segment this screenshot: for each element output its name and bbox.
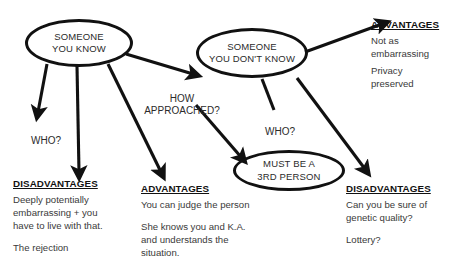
block-advantages-bottom-middle-heading: ADVANTAGES [141, 182, 269, 195]
edge-unknown-to-who [262, 79, 274, 110]
edge-label-how-approached: HOW APPROACHED? [143, 80, 221, 118]
block-advantages-top-right-para-2: Privacy preserved [371, 64, 459, 90]
node-someone-you-dont-know-label: SOMEONE YOU DON'T KNOW [209, 41, 295, 66]
block-advantages-top-right-para-1: Not as embarrassing [371, 34, 459, 60]
edge-label-who-left: WHO? [22, 122, 70, 147]
block-disadvantages-bottom-right-heading: DISADVANTAGES [346, 182, 458, 195]
block-advantages-bottom-middle-para-2: She knows you and K.A. and understands t… [141, 220, 269, 260]
block-advantages-top-right-heading: ADVANTAGES [371, 18, 459, 31]
block-disadvantages-bottom-left: DISADVANTAGES Deeply potentially embarra… [13, 177, 135, 255]
block-disadvantages-bottom-right-para-2: Lottery? [346, 233, 458, 246]
block-disadvantages-bottom-left-para-2: The rejection [13, 241, 135, 254]
edge-known-to-disadvantages [77, 66, 79, 172]
diagram-canvas: SOMEONE YOU KNOW SOMEONE YOU DON'T KNOW … [0, 0, 462, 280]
edge-label-who-right-text: WHO? [265, 126, 295, 137]
node-someone-you-dont-know[interactable]: SOMEONE YOU DON'T KNOW [196, 28, 308, 78]
block-disadvantages-bottom-right-para-1: Can you be sure of genetic quality? [346, 198, 458, 224]
node-someone-you-know[interactable]: SOMEONE YOU KNOW [25, 19, 133, 67]
block-disadvantages-bottom-left-para-1: Deeply potentially embarrassing + you ha… [13, 193, 135, 233]
node-someone-you-know-label: SOMEONE YOU KNOW [52, 31, 106, 56]
node-must-be-a-3rd-person-label: MUST BE A 3RD PERSON [257, 158, 320, 183]
edge-label-who-left-text: WHO? [31, 135, 61, 146]
block-disadvantages-bottom-left-heading: DISADVANTAGES [13, 177, 135, 190]
block-advantages-bottom-middle-para-1: You can judge the person [141, 198, 269, 211]
edge-label-how-approached-text: HOW APPROACHED? [144, 93, 220, 117]
edge-known-to-who [38, 64, 47, 112]
block-advantages-bottom-middle: ADVANTAGES You can judge the person She … [141, 182, 269, 260]
edge-label-who-right: WHO? [256, 113, 304, 138]
block-disadvantages-bottom-right: DISADVANTAGES Can you be sure of genetic… [346, 182, 458, 246]
edge-known-to-unknown [126, 54, 193, 74]
block-advantages-top-right: ADVANTAGES Not as embarrassing Privacy p… [371, 18, 459, 91]
